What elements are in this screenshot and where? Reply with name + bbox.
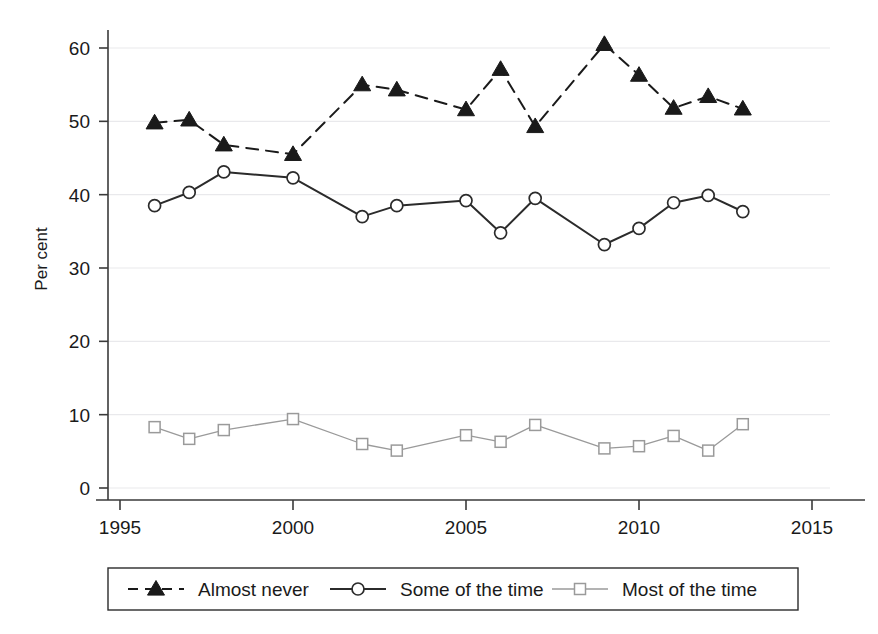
data-point-marker xyxy=(668,197,680,209)
chart-figure: 0102030405060 19952000200520102015 Per c… xyxy=(0,0,878,634)
legend-item-almost-never[interactable]: Almost never xyxy=(128,579,310,600)
series-some-of-the-time xyxy=(149,166,749,251)
data-point-marker xyxy=(388,81,405,96)
line-chart: 0102030405060 19952000200520102015 Per c… xyxy=(0,0,878,634)
data-point-marker xyxy=(575,584,586,595)
y-tick-label: 10 xyxy=(69,405,90,426)
data-point-marker xyxy=(391,200,403,212)
data-series-layer xyxy=(146,36,751,456)
series-line xyxy=(155,44,743,154)
y-axis-title-text: Per cent xyxy=(32,227,51,291)
legend-item-most-of-the-time[interactable]: Most of the time xyxy=(552,579,757,600)
data-point-marker xyxy=(737,419,748,430)
data-point-marker xyxy=(149,200,161,212)
x-tick-label: 2015 xyxy=(791,517,833,538)
y-tick-label: 0 xyxy=(79,478,90,499)
series-line xyxy=(155,419,743,451)
legend-label: Some of the time xyxy=(400,579,544,600)
x-tick-label: 1995 xyxy=(99,517,141,538)
data-point-marker xyxy=(184,433,195,444)
data-point-marker xyxy=(634,441,645,452)
data-point-marker xyxy=(700,88,717,103)
data-point-marker xyxy=(181,111,198,126)
data-point-marker xyxy=(183,186,195,198)
data-point-marker xyxy=(218,166,230,178)
data-point-marker xyxy=(495,227,507,239)
data-point-marker xyxy=(354,76,371,91)
data-point-marker xyxy=(530,419,541,430)
data-point-marker xyxy=(357,439,368,450)
legend-item-some-of-the-time[interactable]: Some of the time xyxy=(330,579,544,600)
series-line xyxy=(155,172,743,245)
y-tick-label: 30 xyxy=(69,258,90,279)
x-tick-label: 2010 xyxy=(618,517,660,538)
data-point-marker xyxy=(702,189,714,201)
legend-label: Almost never xyxy=(198,579,310,600)
x-tick-label: 2005 xyxy=(445,517,487,538)
data-point-marker xyxy=(461,430,472,441)
data-point-marker xyxy=(668,430,679,441)
data-point-marker xyxy=(495,436,506,447)
y-tick-label: 50 xyxy=(69,111,90,132)
data-point-marker xyxy=(598,239,610,251)
data-point-marker xyxy=(599,443,610,454)
data-point-marker xyxy=(631,67,648,82)
y-tick-label: 20 xyxy=(69,331,90,352)
data-point-marker xyxy=(737,206,749,218)
series-most-of-the-time xyxy=(149,414,748,457)
x-tick-label: 2000 xyxy=(272,517,314,538)
data-point-marker xyxy=(703,445,714,456)
data-point-marker xyxy=(391,445,402,456)
data-point-marker xyxy=(356,211,368,223)
data-point-marker xyxy=(148,581,165,596)
series-almost-never xyxy=(146,36,751,161)
data-point-marker xyxy=(492,61,509,76)
data-point-marker xyxy=(633,222,645,234)
y-tick-label: 60 xyxy=(69,38,90,59)
data-point-marker xyxy=(529,192,541,204)
data-point-marker xyxy=(215,136,232,151)
data-point-marker xyxy=(596,36,613,51)
legend-label: Most of the time xyxy=(622,579,757,600)
data-point-marker xyxy=(218,425,229,436)
data-point-marker xyxy=(149,422,160,433)
y-axis-title: Per cent xyxy=(32,227,51,291)
data-point-marker xyxy=(352,583,364,595)
y-tick-label: 40 xyxy=(69,185,90,206)
data-point-marker xyxy=(288,414,299,425)
data-point-marker xyxy=(287,172,299,184)
x-axis-tick-labels: 19952000200520102015 xyxy=(99,517,833,538)
data-point-marker xyxy=(460,195,472,207)
chart-legend: Almost neverSome of the timeMost of the … xyxy=(108,568,798,610)
y-axis-tick-labels: 0102030405060 xyxy=(69,38,90,499)
